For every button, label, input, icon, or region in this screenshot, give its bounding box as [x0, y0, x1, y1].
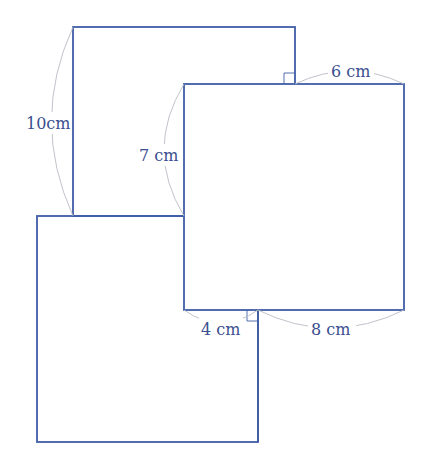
right-angle-mark-top	[284, 73, 295, 84]
geometry-figure: 10cm 7 cm 6 cm 4 cm 8 cm	[0, 0, 430, 465]
label-top-width: 6 cm	[331, 62, 370, 81]
label-bottom-left-width: 4 cm	[201, 320, 240, 339]
label-bottom-right-width: 8 cm	[311, 320, 350, 339]
label-left-height: 10cm	[26, 114, 71, 133]
label-middle-height: 7 cm	[139, 146, 178, 165]
